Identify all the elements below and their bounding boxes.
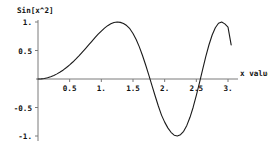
y-tick-label-0: 1.	[23, 18, 32, 27]
y-tick-label-1: 0.5	[18, 47, 32, 56]
x-tick-label-2: 1.5	[126, 84, 140, 93]
y-axis-title: Sin[x^2]	[17, 6, 54, 15]
plot-container: 0.51.1.52.2.53. 1.0.5-0.5-1. Sin[x^2] x …	[0, 0, 268, 153]
x-tick-label-4: 2.5	[189, 84, 203, 93]
x-tick-labels: 0.51.1.52.2.53.	[63, 84, 233, 93]
y-tick-labels: 1.0.5-0.5-1.	[14, 18, 33, 141]
y-tick-label-2: -0.5	[14, 104, 33, 113]
x-tick-label-5: 3.	[223, 84, 232, 93]
axes-group	[36, 20, 238, 141]
x-tick-label-0: 0.5	[63, 84, 77, 93]
plot-svg: 0.51.1.52.2.53. 1.0.5-0.5-1. Sin[x^2] x …	[0, 0, 268, 153]
x-axis-title: x value	[240, 69, 268, 78]
x-tick-label-3: 2.	[160, 84, 169, 93]
y-tick-label-3: -1.	[18, 132, 32, 141]
x-tick-label-1: 1.	[97, 84, 106, 93]
